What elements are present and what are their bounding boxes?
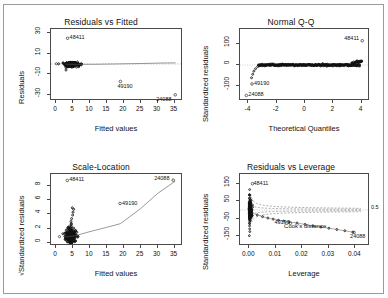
y-tickmark <box>236 43 239 44</box>
y-tick-label: 8 <box>34 174 41 192</box>
x-tickmark <box>332 100 333 103</box>
y-tickmark <box>47 73 50 74</box>
x-tick-label: 4 <box>347 105 375 112</box>
x-tickmark <box>89 245 90 248</box>
x-tickmark <box>72 100 73 103</box>
y-axis-title-residuals: Residuals <box>17 71 26 104</box>
panel-scale-location: Scale-Location √Standardized residuals F… <box>8 152 194 294</box>
y-tickmark <box>47 199 50 200</box>
y-tick-label: -10 <box>34 63 41 81</box>
point-label-48411: 48411 <box>69 176 84 182</box>
x-tickmark <box>123 245 124 248</box>
x-tickmark <box>248 245 249 248</box>
point-label-49190: 49190 <box>122 200 137 206</box>
x-tickmark <box>276 100 277 103</box>
point-label-24088: 24088 <box>350 233 365 239</box>
x-tickmark <box>328 245 329 248</box>
y-tickmark <box>47 94 50 95</box>
point-label-49190: 49190 <box>254 80 269 86</box>
plot-area-scale-location <box>50 173 182 245</box>
x-tick-label: 0.02 <box>287 250 315 257</box>
x-tickmark <box>304 100 305 103</box>
scatter-canvas-scale-location <box>51 174 182 245</box>
y-axis-title-standardized-residuals-leverage: Standardized residuals <box>201 194 210 270</box>
x-tick-label: 2 <box>318 105 346 112</box>
point-label-48411: 48411 <box>253 180 268 186</box>
x-tickmark <box>174 245 175 248</box>
y-tickmark <box>47 53 50 54</box>
y-tick-label: 150 <box>223 172 230 190</box>
y-tick-label: 0 <box>223 54 230 72</box>
point-label-49190: 49190 <box>117 83 132 89</box>
x-tickmark <box>140 100 141 103</box>
y-tickmark <box>236 218 239 219</box>
x-tickmark <box>157 245 158 248</box>
y-axis-title-sqrt-standardized-residuals: √Standardized residuals <box>17 196 26 276</box>
panel-residuals-vs-leverage: Residuals vs Leverage Standardized resid… <box>194 152 384 294</box>
x-tickmark <box>361 100 362 103</box>
y-tickmark <box>236 183 239 184</box>
x-tickmark <box>174 100 175 103</box>
x-axis-title-leverage: Leverage <box>224 269 384 278</box>
point-label-48411: 48411 <box>70 34 85 40</box>
y-tick-label: -100 <box>223 74 230 92</box>
point-label-48411: 48411 <box>344 35 359 41</box>
y-tick-label: -30 <box>34 83 41 101</box>
x-tickmark <box>106 100 107 103</box>
x-tick-label: 0.00 <box>234 250 262 257</box>
x-tickmark <box>55 100 56 103</box>
x-tickmark <box>89 100 90 103</box>
panel-title-residuals-vs-leverage: Residuals vs Leverage <box>204 162 378 172</box>
x-tickmark <box>140 245 141 248</box>
y-tickmark <box>236 235 239 236</box>
y-tickmark <box>236 64 239 65</box>
panel-residuals-vs-fitted: Residuals vs Fitted Residuals Fitted val… <box>8 8 194 149</box>
y-tick-label: 30 <box>34 22 41 40</box>
y-tickmark <box>236 85 239 86</box>
x-tick-label: 0 <box>290 105 318 112</box>
x-tick-label: 35 <box>160 250 188 257</box>
x-tickmark <box>275 245 276 248</box>
panel-title-normal-qq: Normal Q-Q <box>204 17 378 27</box>
y-tick-label: 50 <box>223 190 230 208</box>
y-tick-label: 100 <box>223 33 230 51</box>
x-axis-title-theoretical-quantiles: Theoretical Quantiles <box>224 124 384 133</box>
point-label-24088: 24088 <box>248 91 263 97</box>
cooks-level-label: 0.5 <box>371 204 379 210</box>
x-tickmark <box>354 245 355 248</box>
y-tickmark <box>236 200 239 201</box>
y-tickmark <box>47 242 50 243</box>
y-tickmark <box>47 32 50 33</box>
y-tick-label: -150 <box>223 225 230 243</box>
panel-title-scale-location: Scale-Location <box>8 162 194 172</box>
x-axis-title-fitted-values-scale: Fitted values <box>38 269 194 278</box>
x-tick-label: -4 <box>233 105 261 112</box>
x-tickmark <box>247 100 248 103</box>
y-tickmark <box>47 228 50 229</box>
x-tick-label: 0.01 <box>261 250 289 257</box>
panel-normal-qq: Normal Q-Q Standardized residuals Theore… <box>194 8 384 149</box>
y-tick-label: 10 <box>34 42 41 60</box>
point-label-24088: 24088 <box>156 96 171 102</box>
y-tick-label: -50 <box>223 207 230 225</box>
y-tickmark <box>47 185 50 186</box>
x-tickmark <box>123 100 124 103</box>
r-diagnostic-plot-figure: Residuals vs Fitted Residuals Fitted val… <box>0 0 388 298</box>
y-tickmark <box>47 213 50 214</box>
x-tick-label: 0.04 <box>340 250 368 257</box>
x-tickmark <box>72 245 73 248</box>
cooks-distance-label: Cook's distance <box>284 223 326 229</box>
x-tick-label: 0.03 <box>314 250 342 257</box>
x-tickmark <box>301 245 302 248</box>
x-tick-label: -2 <box>262 105 290 112</box>
x-tickmark <box>55 245 56 248</box>
x-tick-label: 35 <box>160 105 188 112</box>
x-tickmark <box>106 245 107 248</box>
y-axis-title-standardized-residuals-qq: Standardized residuals <box>201 46 210 122</box>
point-label-24088: 24088 <box>154 175 169 181</box>
x-axis-title-fitted-values: Fitted values <box>38 124 194 133</box>
